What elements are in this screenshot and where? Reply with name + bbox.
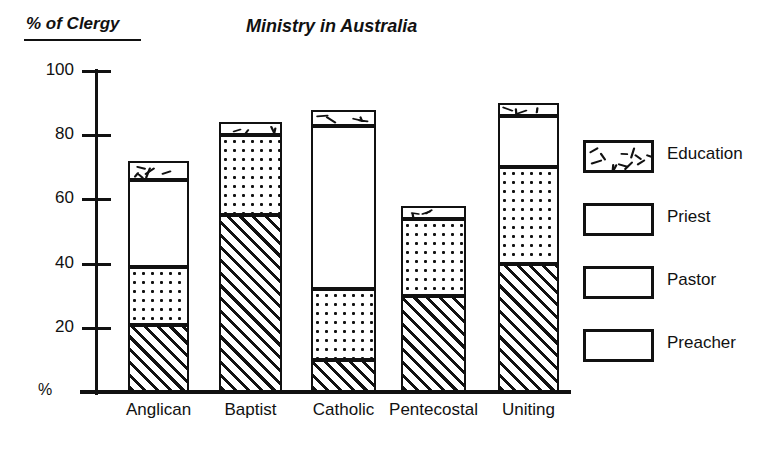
- y-axis-title-underline: [24, 39, 141, 41]
- bar-segment-baptist-pastor[interactable]: [219, 135, 282, 215]
- bar-segment-baptist-education[interactable]: [219, 122, 282, 135]
- bar-pentecostal[interactable]: [401, 0, 466, 449]
- bar-segment-pentecostal-education[interactable]: [401, 206, 466, 219]
- legend-label-education: Education: [667, 144, 743, 164]
- bar-baptist[interactable]: [219, 0, 282, 449]
- bar-segment-uniting-preacher[interactable]: [498, 264, 559, 392]
- y-tick-100: [82, 70, 111, 73]
- y-tick-label-100: 100: [26, 60, 74, 80]
- legend-item-preacher[interactable]: Preacher: [583, 329, 783, 365]
- bar-segment-pentecostal-pastor[interactable]: [401, 219, 466, 296]
- y-tick-label-40: 40: [26, 253, 74, 273]
- bar-segment-uniting-priest[interactable]: [498, 116, 559, 167]
- bar-uniting[interactable]: [498, 0, 559, 449]
- y-tick-40: [82, 263, 111, 266]
- bar-catholic[interactable]: [311, 0, 376, 449]
- bar-segment-anglican-preacher[interactable]: [128, 325, 189, 392]
- legend-swatch-priest: [583, 203, 654, 236]
- legend-swatch-education: [583, 140, 654, 173]
- y-tick-label-80: 80: [26, 124, 74, 144]
- y-tick-label-20: 20: [26, 317, 74, 337]
- bar-segment-uniting-education[interactable]: [498, 103, 559, 116]
- legend-item-education[interactable]: Education: [583, 140, 783, 176]
- legend-label-pastor: Pastor: [667, 270, 716, 290]
- y-tick-label-60: 60: [26, 188, 74, 208]
- bar-segment-anglican-education[interactable]: [128, 161, 189, 180]
- y-axis-title: % of Clergy: [26, 14, 120, 34]
- stacked-bar-chart: % of Clergy Ministry in Australia 100806…: [0, 0, 784, 449]
- bar-segment-anglican-priest[interactable]: [128, 180, 189, 267]
- y-tick-80: [82, 134, 111, 137]
- legend-label-preacher: Preacher: [667, 333, 736, 353]
- legend-label-priest: Priest: [667, 207, 710, 227]
- y-tick-20: [82, 327, 111, 330]
- legend-swatch-preacher: [583, 329, 654, 362]
- y-axis-unit-label: %: [38, 381, 52, 399]
- bar-segment-catholic-priest[interactable]: [311, 126, 376, 290]
- y-tick-60: [82, 198, 111, 201]
- bar-segment-anglican-pastor[interactable]: [128, 267, 189, 325]
- bar-segment-baptist-preacher[interactable]: [219, 215, 282, 392]
- legend-swatch-pastor: [583, 266, 654, 299]
- bar-segment-catholic-education[interactable]: [311, 110, 376, 126]
- bar-segment-pentecostal-preacher[interactable]: [401, 296, 466, 392]
- bar-segment-catholic-preacher[interactable]: [311, 360, 376, 392]
- bar-anglican[interactable]: [128, 0, 189, 449]
- legend-item-priest[interactable]: Priest: [583, 203, 783, 239]
- legend-item-pastor[interactable]: Pastor: [583, 266, 783, 302]
- x-axis-label-uniting: Uniting: [459, 400, 599, 420]
- bar-segment-catholic-pastor[interactable]: [311, 289, 376, 360]
- bar-segment-uniting-pastor[interactable]: [498, 167, 559, 263]
- y-axis-line: [95, 69, 98, 395]
